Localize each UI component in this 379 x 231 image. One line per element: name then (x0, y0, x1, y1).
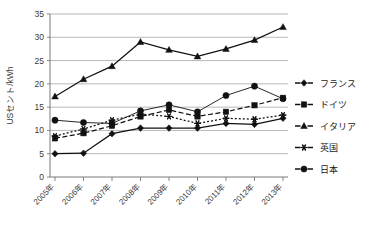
legend-label-イタリア: イタリア (320, 122, 356, 132)
datapoint-日本-2008年 (137, 108, 143, 114)
legend-label-英国: 英国 (320, 142, 338, 153)
datapoint-日本-2010年 (194, 109, 200, 115)
y-tick-label-30: 30 (35, 32, 45, 42)
datapoint-日本-2005年 (52, 117, 58, 123)
datapoint-日本-2013年 (280, 96, 286, 102)
datapoint-日本-2009年 (166, 102, 172, 108)
datapoint-ドイツ-2011年 (223, 109, 228, 114)
datapoint-日本-2007年 (109, 120, 115, 126)
datapoint-日本-2006年 (80, 119, 86, 125)
y-tick-label-5: 5 (39, 149, 44, 159)
y-axis-title: USセント/kWh (5, 66, 15, 124)
y-tick-label-20: 20 (35, 79, 45, 89)
legend-marker-日本 (301, 166, 307, 172)
legend-label-日本: 日本 (320, 164, 338, 175)
legend-label-ドイツ: ドイツ (320, 100, 347, 110)
y-axis-title-text: USセント/kWh (5, 66, 15, 124)
legend-label-フランス: フランス (320, 79, 356, 89)
y-tick-label-35: 35 (35, 9, 45, 19)
y-tick-label-25: 25 (35, 56, 45, 66)
y-tick-label-15: 15 (35, 102, 45, 112)
datapoint-ドイツ-2012年 (252, 103, 257, 108)
line-chart-plot: 05101520253035 2005年2006年2007年2008年2009年… (0, 0, 379, 231)
datapoint-日本-2012年 (251, 83, 257, 89)
chart-container: 05101520253035 2005年2006年2007年2008年2009年… (0, 0, 379, 231)
y-tick-label-10: 10 (35, 125, 45, 135)
datapoint-日本-2011年 (223, 92, 229, 98)
y-tick-label-0: 0 (39, 172, 44, 182)
legend-marker-ドイツ (301, 102, 306, 107)
